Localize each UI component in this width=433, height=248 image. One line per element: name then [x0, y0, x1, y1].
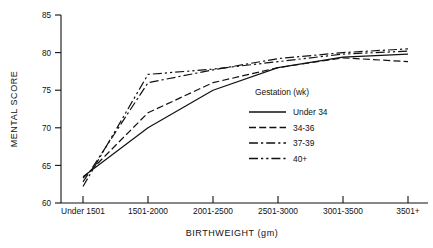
y-tick-label-60: 60: [42, 199, 52, 208]
legend-label-40-plus: 40+: [293, 154, 307, 164]
y-tick-label-75: 75: [42, 86, 52, 95]
y-tick-label-70: 70: [42, 124, 52, 133]
x-tick-label-5: 3501+: [396, 206, 420, 216]
y-tick-label-85: 85: [42, 11, 52, 20]
series-group: [83, 49, 408, 187]
series-line-34-36: [83, 58, 408, 178]
mental-score-line-chart: 85 80 75 70 65 60 MENTAL SCORE Under 150…: [0, 0, 433, 248]
legend: Gestation (wk) Under 34 34-36 37-39 40+: [249, 87, 328, 164]
series-line-37-39: [83, 49, 408, 182]
legend-label-34-36: 34-36: [293, 123, 315, 133]
x-tick-label-4: 3001-3500: [323, 206, 363, 216]
y-tick-label-80: 80: [42, 49, 52, 58]
chart-canvas: 85 80 75 70 65 60 MENTAL SCORE Under 150…: [0, 0, 433, 248]
legend-label-37-39: 37-39: [293, 138, 315, 148]
y-axis-title: MENTAL SCORE: [9, 71, 19, 148]
x-tick-label-0: Under 1501: [61, 206, 105, 216]
legend-label-under-34: Under 34: [293, 107, 328, 117]
x-tick-label-3: 2501-3000: [258, 206, 298, 216]
x-axis-title: BIRTHWEIGHT (gm): [186, 228, 278, 238]
series-line-40-plus: [83, 51, 408, 186]
legend-title: Gestation (wk): [255, 87, 309, 97]
series-line-under-34: [83, 54, 408, 177]
y-tick-label-65: 65: [42, 162, 52, 171]
x-tick-label-2: 2001-2500: [193, 206, 233, 216]
x-tick-label-1: 1501-2000: [128, 206, 168, 216]
